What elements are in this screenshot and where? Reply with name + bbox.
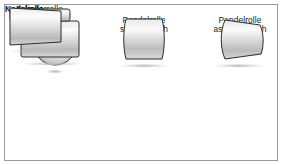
pendelrolle-symmetrisch-body — [124, 19, 165, 59]
pendelrolle-asymmetrisch-shadow — [215, 65, 265, 67]
item-pendelrolle-asymmetrisch: Pendelrolle asymmetrisch — [199, 16, 281, 92]
pendelrolle-symmetrisch-shadow — [120, 65, 168, 67]
rolling-element-types-figure: Kugel — [0, 0, 282, 165]
pendelrolle-asymmetrisch-body — [221, 20, 263, 59]
kegelrolle-shadow — [10, 50, 66, 52]
pendelrolle-asymmetrisch-shape — [199, 16, 281, 72]
kegelrolle-body — [10, 8, 61, 45]
item-pendelrolle-symmetrisch: Pendelrolle symmetrisch — [104, 16, 184, 92]
figure-frame: Kugel — [4, 4, 278, 161]
pendelrolle-symmetrisch-shape — [104, 16, 184, 72]
zylinderrolle-shadow — [22, 63, 82, 65]
